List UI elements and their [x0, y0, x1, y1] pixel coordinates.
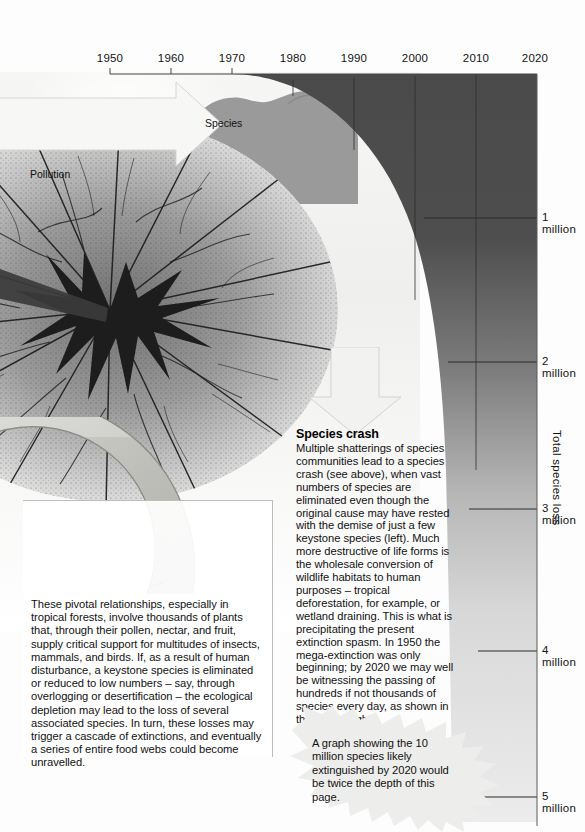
x-tick-2000: 2000 [392, 52, 438, 64]
species-crash-block: Species crash Multiple shatterings of sp… [296, 427, 456, 726]
callout-starburst: A graph showing the 10 million species l… [288, 706, 503, 832]
pivotal-body: These pivotal relationships, especially … [23, 594, 271, 770]
figure-page: Species Pollution [0, 0, 585, 832]
y-tick-2-million: 2 million [542, 355, 585, 379]
species-crash-body: Multiple shatterings of species communit… [296, 442, 456, 726]
species-label: Species [205, 117, 242, 129]
x-tick-2010: 2010 [453, 52, 499, 64]
x-tick-1980: 1980 [270, 52, 316, 64]
species-crash-heading: Species crash [296, 427, 456, 441]
species-crash-arrow [303, 347, 408, 437]
callout-text: A graph showing the 10 million species l… [312, 737, 462, 804]
pollution-label: Pollution [30, 168, 70, 180]
x-tick-1960: 1960 [148, 52, 194, 64]
pollution-arrow [0, 80, 225, 180]
y-axis-title: Total species loss [551, 430, 563, 526]
x-tick-1970: 1970 [209, 52, 255, 64]
y-tick-1-million: 1 million [542, 211, 585, 235]
x-tick-1990: 1990 [331, 52, 377, 64]
x-tick-2020: 2020 [512, 52, 558, 64]
x-tick-1950: 1950 [87, 52, 133, 64]
pivotal-relationships-block: These pivotal relationships, especially … [23, 594, 271, 754]
y-tick-3-million: 3 million [542, 502, 585, 526]
y-tick-4-million: 4 million [542, 644, 585, 668]
y-tick-5-million: 5 million [542, 790, 585, 814]
